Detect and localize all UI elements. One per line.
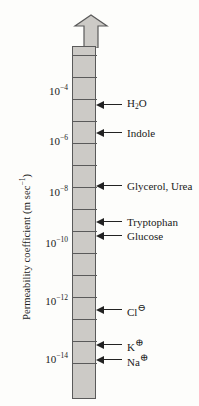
scale-bar-body [72,46,96,399]
tick-mantissa: 10 [45,295,56,307]
callout-label: Glucose [122,230,163,242]
y-axis-tick-2: 10−8 [22,184,68,198]
scale-bar-gradation-9 [73,253,97,254]
left-arrow-icon [96,218,122,227]
tick-mantissa: 10 [45,353,56,365]
scale-bar-gradation-4 [73,143,97,144]
y-axis-tick-5: 10−14 [22,351,68,365]
left-arrow-icon [96,356,122,365]
tick-mantissa: 10 [49,186,60,198]
tick-exponent: −4 [60,83,68,92]
y-axis-tick-3: 10−10 [22,235,68,249]
scale-bar-gradation-5 [73,165,97,166]
callout-label: K⊕ [122,337,143,353]
left-arrow-icon [96,101,122,110]
y-axis-tick-4: 10−12 [22,293,68,307]
callout-label: H2O [122,97,147,113]
callout-tryptophan: Tryptophan [96,215,178,229]
scale-bar-gradation-12 [73,319,97,320]
tick-mantissa: 10 [49,135,60,147]
tick-mantissa: 10 [49,85,60,97]
y-axis-tick-labels: 10−410−610−810−1010−1210−14 [14,0,68,406]
scale-bar-gradation-13 [73,341,97,342]
tick-mantissa: 10 [45,237,56,249]
charge-icon: ⊕ [140,352,148,363]
tick-exponent: −8 [60,184,68,193]
callout-glycerol-urea: Glycerol, Urea [96,179,192,193]
callout-h2o: H2O [96,98,147,112]
scale-bar-gradation-14 [73,363,97,364]
scale-bar-gradation-6 [73,187,97,188]
scale-bar-gradation-10 [73,275,97,276]
permeability-coefficient-chart: Permeability coefficient (m sec−1) 10−41… [0,0,199,406]
scale-bar-gradation-11 [73,297,97,298]
callout-potassium-ion: K⊕ [96,338,143,352]
left-arrow-icon [96,306,122,315]
scale-bar-gradation-3 [73,121,97,122]
charge-icon: ⊕ [135,337,143,348]
left-arrow-icon [96,232,122,241]
tick-exponent: −10 [56,235,68,244]
y-axis-tick-0: 10−4 [22,83,68,97]
scale-bar-gradation-8 [73,231,97,232]
callout-label: Indole [122,127,155,139]
callout-glucose: Glucose [96,229,163,243]
tick-exponent: −12 [56,293,68,302]
tick-exponent: −14 [56,351,68,360]
callout-indole: Indole [96,126,155,140]
callout-sodium-ion: Na⊕ [96,353,148,367]
callout-label: Tryptophan [122,216,178,228]
scale-bar-gradation-0 [73,55,97,56]
tick-exponent: −6 [60,133,68,142]
charge-icon: ⊖ [137,302,145,313]
callout-label: Cl⊖ [122,302,146,318]
left-arrow-icon [96,341,122,350]
scale-bar-gradation-2 [73,99,97,100]
callout-chloride-ion: Cl⊖ [96,303,146,317]
callout-label: Glycerol, Urea [122,180,192,192]
scale-bar-gradation-7 [73,209,97,210]
data-point-callouts: H2OIndoleGlycerol, UreaTryptophanGlucose… [96,0,199,406]
scale-bar-gradation-1 [73,77,97,78]
callout-label: Na⊕ [122,352,148,368]
left-arrow-icon [96,129,122,138]
left-arrow-icon [96,182,122,191]
y-axis-tick-1: 10−6 [22,133,68,147]
